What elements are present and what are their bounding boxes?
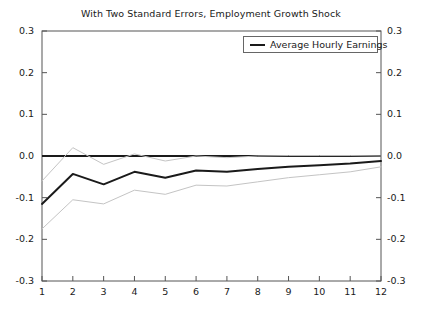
x-axis-label: 8 (248, 286, 268, 297)
x-axis-label: 5 (155, 286, 175, 297)
x-axis-label: 9 (279, 286, 299, 297)
legend-label-average-hourly-earnings: Average Hourly Earnings (270, 39, 387, 50)
y-axis-label-right: -0.2 (387, 233, 421, 244)
chart-title: With Two Standard Errors, Employment Gro… (0, 8, 422, 19)
y-axis-label-left: 0.2 (4, 67, 34, 78)
y-axis-label-left: -0.1 (4, 192, 34, 203)
x-axis-label: 3 (94, 286, 114, 297)
chart-figure: With Two Standard Errors, Employment Gro… (0, 0, 422, 319)
y-axis-label-left: 0.1 (4, 108, 34, 119)
series-line-average-hourly-earnings (42, 161, 381, 204)
x-axis-label: 12 (371, 286, 391, 297)
y-axis-label-right: 0.2 (387, 67, 421, 78)
y-axis-label-right: 0.0 (387, 150, 421, 161)
chart-legend: Average Hourly Earnings (243, 36, 378, 53)
x-axis-label: 7 (217, 286, 237, 297)
x-axis-label: 6 (186, 286, 206, 297)
figure-caption-cutoff (18, 308, 318, 317)
y-axis-label-right: 0.1 (387, 108, 421, 119)
x-axis-label: 10 (309, 286, 329, 297)
y-axis-label-right: 0.3 (387, 25, 421, 36)
x-axis-label: 1 (32, 286, 52, 297)
y-axis-label-left: 0.0 (4, 150, 34, 161)
y-axis-label-left: 0.3 (4, 25, 34, 36)
y-axis-label-left: -0.3 (4, 275, 34, 286)
legend-line-swatch (250, 44, 265, 46)
x-axis-label: 2 (63, 286, 83, 297)
y-axis-label-left: -0.2 (4, 233, 34, 244)
y-axis-label-right: -0.3 (387, 275, 421, 286)
x-axis-label: 11 (340, 286, 360, 297)
series-line-lower-two-standard-errors (42, 167, 381, 229)
y-axis-label-right: -0.1 (387, 192, 421, 203)
x-axis-label: 4 (124, 286, 144, 297)
